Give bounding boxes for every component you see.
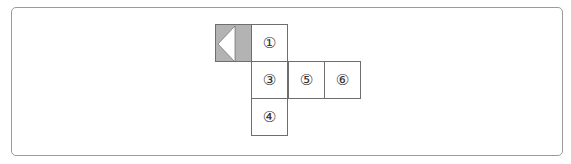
face-4: ④	[251, 98, 288, 136]
triangle-left-icon	[216, 25, 253, 63]
face-5: ⑤	[288, 61, 325, 99]
face-6: ⑥	[324, 61, 361, 99]
shaded-face	[215, 24, 252, 62]
face-1: ①	[251, 24, 288, 62]
face-3: ③	[251, 61, 288, 99]
